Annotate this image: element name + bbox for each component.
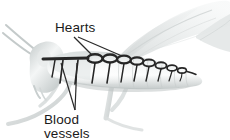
label-blood-vessels-line1: Blood <box>44 112 79 127</box>
diagram-canvas: Hearts Blood vessels <box>0 0 230 140</box>
label-hearts: Hearts <box>55 20 96 35</box>
dorsal-aorta <box>43 58 88 59</box>
hind-leg-tibia <box>106 118 142 130</box>
grasshopper-circulatory-diagram: Hearts Blood vessels <box>0 0 230 140</box>
label-blood-vessels-line2: vessels <box>44 126 90 140</box>
